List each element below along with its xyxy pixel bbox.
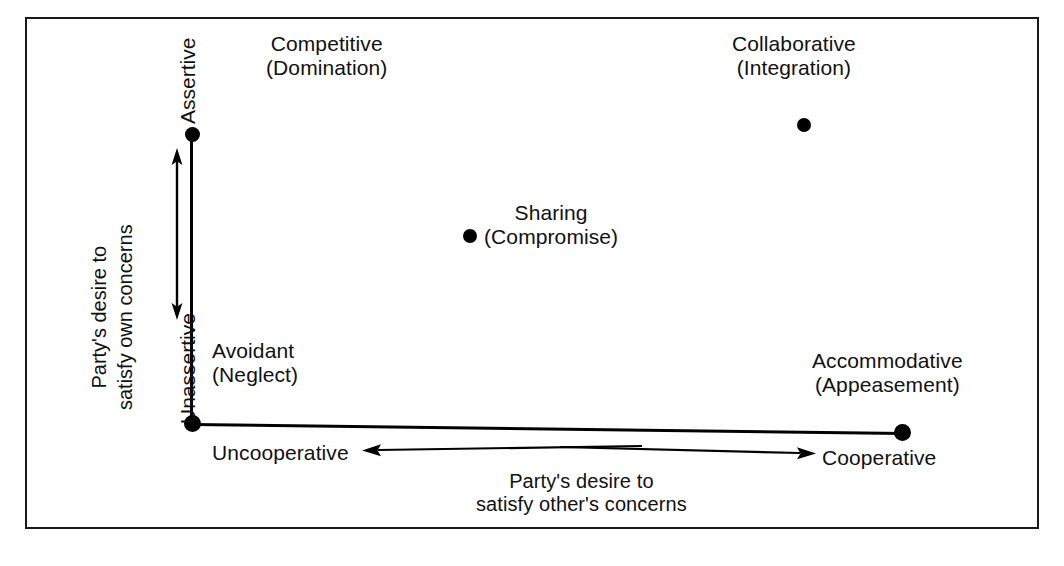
- x-axis-title-line-1: Party's desire to: [476, 470, 687, 493]
- horizontal-axis-right-endpoint-dot: [894, 424, 911, 441]
- style-alias-accommodative: (Appeasement): [812, 373, 963, 397]
- style-label-avoidant: Avoidant (Neglect): [212, 339, 298, 388]
- x-axis-low-label: Uncooperative: [212, 441, 349, 465]
- y-axis-title: Party's desire to satisfy own concerns: [86, 224, 138, 410]
- y-axis-title-line-1: Party's desire to: [86, 224, 112, 410]
- style-label-sharing: Sharing (Compromise): [484, 201, 618, 250]
- style-name-accommodative: Accommodative: [812, 349, 963, 373]
- vertical-double-arrow-icon: [170, 148, 184, 320]
- style-name-sharing: Sharing: [484, 201, 618, 225]
- style-name-collaborative: Collaborative: [732, 32, 856, 56]
- style-alias-avoidant: (Neglect): [212, 363, 298, 387]
- data-point-sharing: [463, 229, 477, 243]
- x-axis-title: Party's desire to satisfy other's concer…: [476, 470, 687, 516]
- data-point-collaborative: [797, 118, 811, 132]
- y-axis-high-label: Assertive: [176, 38, 200, 124]
- style-label-competitive: Competitive (Domination): [266, 32, 387, 81]
- style-name-competitive: Competitive: [266, 32, 387, 56]
- x-axis-high-label: Cooperative: [822, 446, 936, 470]
- style-alias-competitive: (Domination): [266, 56, 387, 80]
- right-arrow-cooperative-icon: [560, 443, 816, 463]
- y-axis-title-line-2: satisfy own concerns: [112, 224, 138, 410]
- style-label-accommodative: Accommodative (Appeasement): [812, 349, 963, 398]
- style-label-collaborative: Collaborative (Integration): [732, 32, 856, 81]
- vertical-axis-top-endpoint-dot: [185, 127, 200, 142]
- style-alias-sharing: (Compromise): [484, 225, 618, 249]
- style-alias-collaborative: (Integration): [732, 56, 856, 80]
- x-axis-title-line-2: satisfy other's concerns: [476, 493, 687, 516]
- conflict-styles-figure: Competitive (Domination) Collaborative (…: [0, 0, 1064, 566]
- y-axis-low-label: Unassertive: [176, 313, 200, 424]
- style-name-avoidant: Avoidant: [212, 339, 298, 363]
